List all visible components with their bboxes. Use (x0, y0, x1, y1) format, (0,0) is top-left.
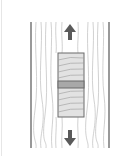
arrow-down-icon (64, 130, 76, 146)
glue-joint-band (58, 81, 84, 88)
test-block (58, 53, 84, 117)
arrow-up-icon (64, 24, 76, 40)
wood-grain-diagram (0, 0, 132, 156)
